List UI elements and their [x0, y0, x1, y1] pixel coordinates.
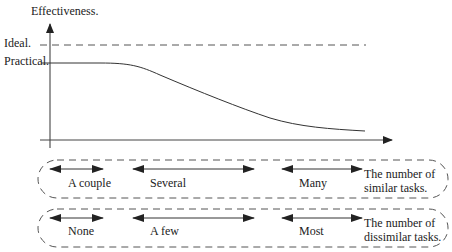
diagram-canvas	[0, 0, 452, 252]
ideal-label: Ideal.	[4, 37, 31, 50]
dissimilar-caption-line2: dissimilar tasks.	[364, 231, 441, 244]
y-axis-label: Effectiveness.	[31, 5, 98, 18]
range-label-none: None	[68, 225, 94, 238]
range-label-several: Several	[150, 177, 186, 190]
range-label-a-couple: A couple	[68, 177, 111, 190]
range-label-a-few: A few	[150, 225, 179, 238]
dissimilar-caption-line1: The number of	[364, 217, 435, 230]
practical-label: Practical.	[4, 55, 49, 68]
similar-caption-line1: The number of	[364, 168, 435, 181]
similar-caption-line2: similar tasks.	[364, 182, 427, 195]
effectiveness-curve	[41, 63, 365, 131]
range-label-many: Many	[299, 177, 327, 190]
range-label-most: Most	[299, 225, 324, 238]
